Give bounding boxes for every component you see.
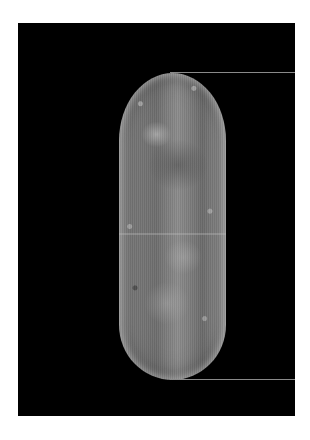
embryo-image: [119, 73, 226, 380]
top-marker-line: [170, 72, 295, 73]
bottom-marker-line: [170, 379, 295, 380]
